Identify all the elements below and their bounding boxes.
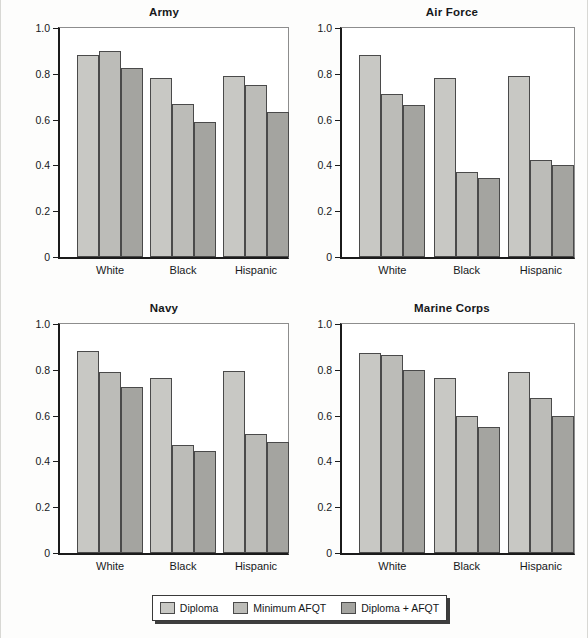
legend-label: Diploma + AFQT: [361, 602, 439, 614]
y-axis-tick: [335, 211, 342, 212]
chart-panel-air-force: Air Force1.00.80.60.40.20WhiteBlackHispa…: [294, 0, 588, 296]
x-axis-tick-label: Hispanic: [520, 264, 562, 276]
bar: [456, 416, 478, 553]
y-axis-tick-label: 0.8: [35, 364, 50, 376]
chart-panel-army: ArmyFraction passing1.00.80.60.40.20Whit…: [0, 0, 294, 296]
y-axis-tick: [53, 257, 60, 258]
y-axis-tick-label: 0.2: [35, 205, 50, 217]
y-axis-tick-label: 0.4: [317, 159, 332, 171]
bar: [508, 372, 530, 553]
bar: [150, 378, 172, 553]
bar: [77, 351, 99, 553]
y-axis-tick-label: 1.0: [35, 22, 50, 34]
y-axis-tick-label: 0.4: [317, 455, 332, 467]
y-axis-tick: [53, 507, 60, 508]
y-axis-tick-label: 0.2: [317, 501, 332, 513]
bar: [381, 355, 403, 553]
y-axis-tick-label: 0.4: [35, 159, 50, 171]
y-axis-tick-label: 0.4: [35, 455, 50, 467]
y-axis-tick: [335, 370, 342, 371]
bar: [245, 434, 267, 553]
bar: [403, 105, 425, 257]
panel-title: Army: [0, 6, 294, 18]
bar-group: [359, 324, 425, 553]
y-axis-tick-label: 0.2: [317, 205, 332, 217]
y-axis-tick-label: 0: [326, 547, 332, 559]
bar: [121, 68, 143, 257]
bar: [245, 85, 267, 257]
y-axis-tick-label: 0.6: [35, 410, 50, 422]
y-axis-tick-label: 1.0: [35, 318, 50, 330]
y-axis-tick-label: 0.2: [35, 501, 50, 513]
bar: [359, 55, 381, 257]
chart-panel-navy: NavyFraction passing1.00.80.60.40.20Whit…: [0, 296, 294, 592]
legend-swatch-icon: [233, 602, 248, 614]
bar: [456, 172, 478, 257]
bar: [508, 76, 530, 257]
y-axis-tick: [53, 416, 60, 417]
plot-area: Fraction passing1.00.80.60.40.20WhiteBla…: [58, 27, 289, 259]
bar: [552, 416, 574, 553]
y-axis-tick-label: 0: [44, 547, 50, 559]
y-axis-tick: [53, 370, 60, 371]
y-axis-tick: [335, 165, 342, 166]
bar: [403, 370, 425, 553]
bar: [150, 78, 172, 257]
y-axis-tick-label: 1.0: [317, 318, 332, 330]
bar: [434, 78, 456, 257]
y-axis-tick: [335, 74, 342, 75]
y-axis-tick-label: 0.6: [317, 410, 332, 422]
bar-group: [508, 28, 574, 257]
y-axis-tick: [53, 211, 60, 212]
bar: [478, 427, 500, 553]
bar: [381, 94, 403, 257]
y-axis-tick: [53, 165, 60, 166]
y-axis-tick: [53, 553, 60, 554]
bar-group: [434, 324, 500, 553]
y-axis-tick: [335, 416, 342, 417]
bar-group: [434, 28, 500, 257]
y-axis-tick: [335, 120, 342, 121]
bar: [434, 378, 456, 553]
bar-group: [223, 28, 289, 257]
legend-label: Minimum AFQT: [253, 602, 326, 614]
bar: [530, 398, 552, 553]
chart-panel-marine-corps: Marine Corps1.00.80.60.40.20WhiteBlackHi…: [294, 296, 588, 592]
bar: [359, 353, 381, 553]
bar: [223, 76, 245, 257]
y-axis-tick: [335, 553, 342, 554]
legend-label: Diploma: [180, 602, 219, 614]
bar: [194, 122, 216, 257]
x-axis-tick-label: Hispanic: [520, 560, 562, 572]
bar: [552, 165, 574, 257]
legend-item: Minimum AFQT: [233, 602, 326, 614]
bar: [121, 387, 143, 553]
panel-title: Marine Corps: [294, 302, 588, 314]
bar-group: [223, 324, 289, 553]
y-axis-tick-label: 0.8: [35, 68, 50, 80]
y-axis-tick: [53, 461, 60, 462]
x-axis-tick-label: White: [96, 560, 124, 572]
x-axis-tick-label: Hispanic: [235, 560, 277, 572]
bar-group: [150, 324, 216, 553]
bar-group: [150, 28, 216, 257]
legend-swatch-icon: [341, 602, 356, 614]
y-axis-tick-label: 0.8: [317, 364, 332, 376]
bar: [99, 372, 121, 553]
x-axis-tick-label: Black: [453, 560, 480, 572]
x-axis-tick-label: White: [378, 264, 406, 276]
bar: [172, 445, 194, 553]
y-axis-tick-label: 0.6: [317, 114, 332, 126]
y-axis-tick: [335, 28, 342, 29]
bar: [172, 104, 194, 257]
y-axis-tick: [335, 257, 342, 258]
y-axis-tick: [335, 324, 342, 325]
bar: [99, 51, 121, 257]
x-axis-tick-label: Hispanic: [235, 264, 277, 276]
y-axis-tick: [53, 120, 60, 121]
plot-area: 1.00.80.60.40.20WhiteBlackHispanic: [340, 323, 575, 555]
y-axis-tick-label: 0: [326, 251, 332, 263]
bar-group: [359, 28, 425, 257]
bar-group: [77, 28, 143, 257]
y-axis-tick: [335, 507, 342, 508]
